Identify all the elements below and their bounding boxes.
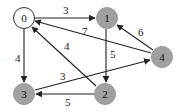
edge-weight: 6 [138,26,144,38]
edge-2-3: 5 [36,94,94,108]
edge-weight: 7 [82,25,88,37]
node-4: 4 [152,47,173,68]
node-2: 2 [95,84,116,105]
node-0: 0 [14,8,35,29]
node-label: 0 [21,12,27,24]
edge-4-1: 6 [117,25,153,50]
node-1: 1 [97,8,118,29]
edge-0-1: 3 [35,4,95,18]
node-label: 4 [159,51,165,63]
node-label: 1 [104,12,110,24]
node-3: 3 [14,84,35,105]
graph-diagram: 3 7 4 4 6 5 3 5 0 1 2 [0,0,183,112]
node-label: 3 [21,88,27,100]
edge-3-4: 3 [35,60,150,90]
edge-weight: 5 [110,48,116,60]
edge-weight: 5 [65,96,71,108]
edge-1-2: 5 [106,29,116,82]
edge-weight: 3 [60,70,66,82]
edge-weight: 4 [15,52,21,64]
edge-weight: 4 [64,40,70,52]
edge-0-3: 4 [15,29,24,82]
edge-weight: 3 [63,4,69,16]
node-label: 2 [102,88,108,100]
